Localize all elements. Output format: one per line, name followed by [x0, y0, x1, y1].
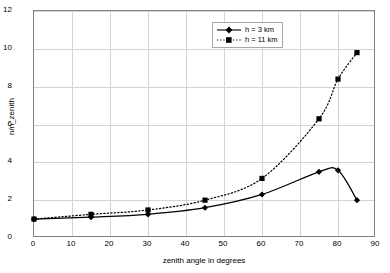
- y-tick-label: 4: [0, 157, 12, 165]
- data-point-marker: [316, 116, 321, 121]
- x-tick-label: 0: [18, 240, 48, 248]
- legend-swatch-dotted-square: [216, 35, 242, 45]
- data-point-marker: [354, 50, 359, 55]
- x-tick-label: 20: [94, 240, 124, 248]
- y-tick-label: 0: [0, 233, 12, 241]
- legend-swatch-solid-diamond: [216, 25, 242, 35]
- y-tick-label: 2: [0, 195, 12, 203]
- data-point-marker: [316, 169, 322, 175]
- data-point-marker: [335, 77, 340, 82]
- x-tick-label: 60: [246, 240, 276, 248]
- x-tick-label: 10: [56, 240, 86, 248]
- x-tick-label: 50: [208, 240, 238, 248]
- legend-label-h3: h = 3 km: [245, 25, 274, 35]
- data-point-marker: [31, 216, 36, 221]
- legend-item-h3: h = 3 km: [216, 25, 278, 35]
- legend-label-h11: h = 11 km: [245, 35, 278, 45]
- plot-area: [33, 10, 375, 237]
- y-tick-label: 8: [0, 82, 12, 90]
- x-tick-label: 70: [284, 240, 314, 248]
- chart-legend: h = 3 km h = 11 km: [212, 22, 283, 48]
- x-tick-label: 90: [360, 240, 390, 248]
- x-axis-title: zenith angle in degrees: [33, 256, 375, 265]
- x-tick-label: 80: [322, 240, 352, 248]
- x-tick-label: 30: [132, 240, 162, 248]
- legend-item-h11: h = 11 km: [216, 35, 278, 45]
- data-point-marker: [202, 205, 208, 211]
- y-tick-label: 6: [0, 120, 12, 128]
- data-point-marker: [145, 207, 150, 212]
- data-point-marker: [354, 197, 360, 203]
- chart-figure: n/n_zenith zenith angle in degrees 02468…: [0, 0, 390, 273]
- series-line-0: [34, 168, 357, 219]
- data-point-marker: [259, 176, 264, 181]
- data-point-marker: [259, 191, 265, 197]
- y-tick-label: 12: [0, 6, 12, 14]
- series-line-1: [34, 53, 357, 219]
- data-point-marker: [202, 198, 207, 203]
- x-tick-label: 40: [170, 240, 200, 248]
- data-series-layer: [34, 11, 376, 238]
- y-tick-label: 10: [0, 44, 12, 52]
- data-point-marker: [88, 212, 93, 217]
